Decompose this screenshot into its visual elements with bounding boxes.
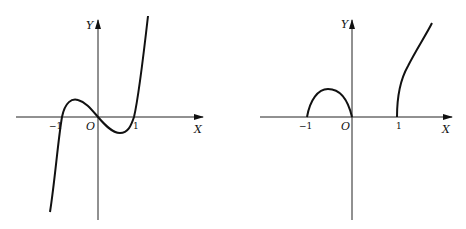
left-origin-label: O bbox=[86, 120, 95, 133]
left-tick-neg: −1 bbox=[49, 121, 62, 131]
right-origin-label: O bbox=[341, 120, 350, 133]
left-cubic-curve bbox=[50, 16, 148, 212]
left-y-label: Y bbox=[86, 19, 95, 32]
diagram-canvas: Y X O −1 1 Y X O −1 1 bbox=[0, 0, 466, 229]
left-tick-pos: 1 bbox=[133, 121, 139, 131]
right-root-curve bbox=[397, 23, 432, 117]
right-y-label: Y bbox=[341, 18, 350, 31]
right-x-label: X bbox=[441, 123, 451, 136]
left-x-label: X bbox=[193, 123, 203, 136]
right-tick-pos: 1 bbox=[396, 121, 402, 131]
left-graph: Y X O −1 1 bbox=[16, 16, 203, 220]
right-tick-neg: −1 bbox=[299, 121, 312, 131]
right-arc-curve bbox=[307, 89, 352, 117]
right-graph: Y X O −1 1 bbox=[260, 18, 452, 220]
